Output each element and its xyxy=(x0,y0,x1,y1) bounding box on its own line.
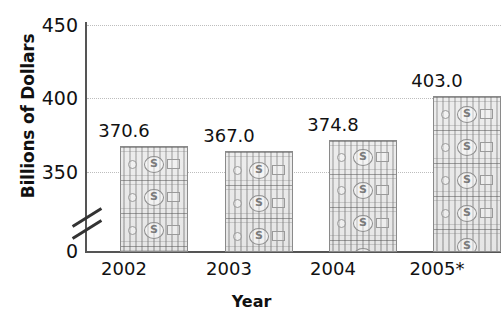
dollar-sign-icon: S xyxy=(457,238,477,251)
y-tick-0: 0 xyxy=(20,240,78,262)
note-seal-icon xyxy=(233,166,242,175)
banknote-pattern-2003: S S S xyxy=(226,152,292,251)
note-numeral-icon xyxy=(376,185,389,195)
banknote-pattern-2005: S S S S S xyxy=(434,97,500,251)
value-label-2002: 370.6 xyxy=(90,120,158,141)
note-numeral-icon xyxy=(167,192,180,202)
note-seal-icon xyxy=(233,199,242,208)
note-numeral-icon xyxy=(480,142,493,152)
dollar-sign-icon: S xyxy=(353,149,373,166)
note-numeral-icon xyxy=(272,198,285,208)
dollar-sign-icon: S xyxy=(457,139,477,156)
note-numeral-icon xyxy=(272,231,285,241)
note-seal-icon xyxy=(128,226,137,235)
note-seal-icon xyxy=(337,153,346,162)
y-tick-350: 350 xyxy=(20,161,78,183)
note-numeral-icon xyxy=(167,225,180,235)
dollar-sign-icon: S xyxy=(457,106,477,123)
dollar-sign-icon: S xyxy=(144,189,164,206)
note-seal-icon xyxy=(233,232,242,241)
note-seal-icon xyxy=(441,176,450,185)
dollar-sign-icon: S xyxy=(353,182,373,199)
note-seal-icon xyxy=(441,110,450,119)
dollar-sign-icon: S xyxy=(353,248,373,251)
note-numeral-icon xyxy=(480,175,493,185)
banknote-pattern-2002: S S S xyxy=(121,147,187,251)
value-label-2005: 403.0 xyxy=(403,70,471,91)
note-seal-icon xyxy=(441,143,450,152)
dollar-sign-icon: S xyxy=(144,156,164,173)
dollar-sign-icon: S xyxy=(249,162,269,179)
note-numeral-icon xyxy=(376,218,389,228)
dollar-sign-icon: S xyxy=(353,215,373,232)
note-numeral-icon xyxy=(272,165,285,175)
x-tick-2002: 2002 xyxy=(90,258,158,279)
x-tick-2005: 2005* xyxy=(403,258,471,279)
note-seal-icon xyxy=(128,160,137,169)
dollar-sign-icon: S xyxy=(144,222,164,239)
y-tick-450: 450 xyxy=(20,14,78,36)
note-seal-icon xyxy=(337,219,346,228)
note-seal-icon xyxy=(128,193,137,202)
dollar-sign-icon: S xyxy=(457,172,477,189)
value-label-2003: 367.0 xyxy=(195,125,263,146)
banknote-pattern-2004: S S S S xyxy=(330,141,396,251)
bar-2004[interactable]: S S S S xyxy=(329,140,397,252)
note-numeral-icon xyxy=(480,109,493,119)
dollar-sign-icon: S xyxy=(249,228,269,245)
note-numeral-icon xyxy=(167,159,180,169)
note-seal-icon xyxy=(337,186,346,195)
dollar-sign-icon: S xyxy=(457,205,477,222)
bar-2002[interactable]: S S S xyxy=(120,146,188,252)
bar-chart: Billions of Dollars 450 400 350 0 S S S xyxy=(0,0,503,320)
bar-2005[interactable]: S S S S S xyxy=(433,96,501,252)
note-numeral-icon xyxy=(480,208,493,218)
bar-2003[interactable]: S S S xyxy=(225,151,293,252)
y-tick-400: 400 xyxy=(20,87,78,109)
note-numeral-icon xyxy=(376,152,389,162)
note-seal-icon xyxy=(441,209,450,218)
x-axis-title: Year xyxy=(0,292,503,311)
x-tick-2004: 2004 xyxy=(299,258,367,279)
dollar-sign-icon: S xyxy=(249,195,269,212)
x-tick-2003: 2003 xyxy=(195,258,263,279)
value-label-2004: 374.8 xyxy=(299,114,367,135)
